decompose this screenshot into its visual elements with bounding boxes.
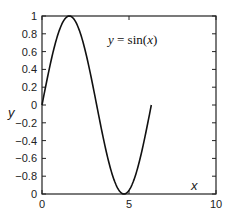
x-tick-label: 5 — [126, 198, 132, 210]
y-tick-label: −0.2 — [15, 117, 37, 129]
x-axis-label: x — [190, 178, 198, 193]
y-tick-label: 0 — [31, 188, 37, 200]
y-tick-label: 1 — [31, 10, 37, 22]
y-tick-label: 0.4 — [22, 63, 37, 75]
y-tick-label: 0.6 — [22, 46, 37, 58]
y-tick-label: 0.2 — [22, 81, 37, 93]
equation-annotation: y = sin(x) — [106, 32, 157, 47]
y-tick-label: −0.8 — [15, 170, 37, 182]
sine-chart: 10.80.60.40.20−0.2−0.4−0.6−0.80 0510 y =… — [0, 0, 234, 219]
y-tick-label: −0.4 — [15, 135, 37, 147]
y-tick-label: 0.8 — [22, 28, 37, 40]
y-tick-label: 0 — [31, 99, 37, 111]
x-tick-label: 10 — [210, 198, 222, 210]
y-tick-label: −0.6 — [15, 152, 37, 164]
x-tick-label: 0 — [39, 198, 45, 210]
